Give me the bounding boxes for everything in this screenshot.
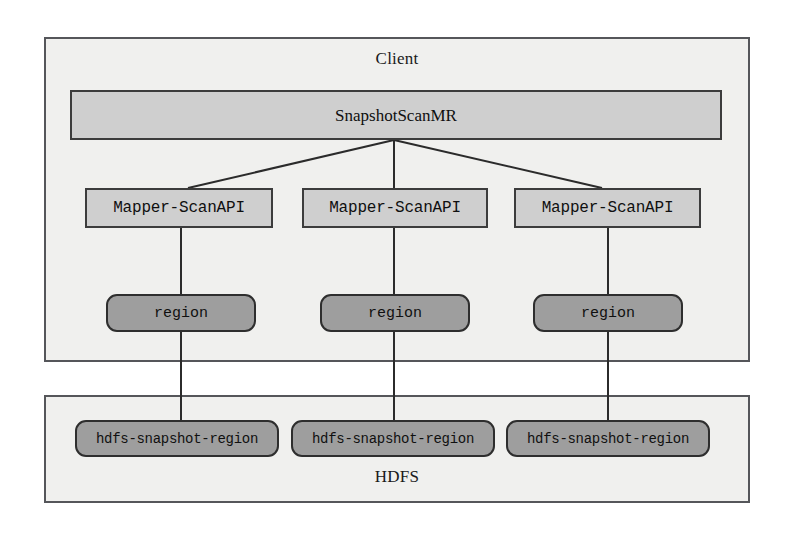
region-node-2[interactable]: region — [533, 294, 683, 332]
hdfs-snapshot-region-node-0[interactable]: hdfs-snapshot-region — [75, 420, 279, 457]
hdfs-snapshot-region-node-2[interactable]: hdfs-snapshot-region — [506, 420, 710, 457]
mapper-scanapi-node-0[interactable]: Mapper-ScanAPI — [85, 188, 273, 228]
diagram-canvas: Client HDFS SnapshotScanMR Mapper-ScanAP… — [0, 0, 792, 537]
hdfs-container-label: HDFS — [46, 467, 748, 487]
region-node-0[interactable]: region — [106, 294, 256, 332]
region-node-1[interactable]: region — [320, 294, 470, 332]
hdfs-snapshot-region-node-1[interactable]: hdfs-snapshot-region — [291, 420, 495, 457]
snapshotscanmr-node[interactable]: SnapshotScanMR — [70, 90, 722, 140]
client-container-label: Client — [46, 49, 748, 69]
mapper-scanapi-node-2[interactable]: Mapper-ScanAPI — [514, 188, 701, 228]
mapper-scanapi-node-1[interactable]: Mapper-ScanAPI — [302, 188, 488, 228]
